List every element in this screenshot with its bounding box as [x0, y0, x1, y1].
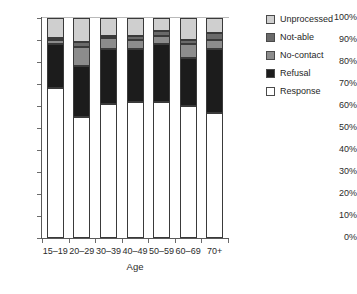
legend-swatch-not-able-icon	[266, 33, 275, 42]
legend-item-not-able[interactable]: Not-able	[266, 28, 356, 46]
x-axis-tick-label: 60–69	[175, 246, 202, 256]
legend-item-label: Unprocessed	[280, 14, 333, 24]
stacked-bar[interactable]	[153, 18, 170, 238]
bar-segment-unprocessed[interactable]	[73, 18, 90, 42]
stacked-bar[interactable]	[127, 18, 144, 238]
bar-segment-no-contact[interactable]	[206, 40, 223, 49]
legend-swatch-unprocessed-icon	[266, 15, 275, 24]
x-axis-tick-label: 20–29	[69, 246, 96, 256]
y-axis-tick-mark	[37, 194, 41, 195]
y-axis-tick-label: 10%	[319, 211, 357, 220]
legend-swatch-no-contact-icon	[266, 51, 275, 60]
bar-segment-refusal[interactable]	[100, 49, 117, 104]
x-axis-tick-mark	[122, 239, 123, 243]
bar-segment-no-contact[interactable]	[153, 36, 170, 45]
x-axis-tick-label: 50–59	[148, 246, 175, 256]
bar-segment-unprocessed[interactable]	[127, 18, 144, 36]
bar-segment-response[interactable]	[47, 88, 64, 238]
legend-item-label: Not-able	[280, 32, 314, 42]
y-axis-tick-mark	[37, 216, 41, 217]
bar-segment-no-contact[interactable]	[180, 44, 197, 57]
stacked-bar[interactable]	[180, 18, 197, 238]
bar-segment-no-contact[interactable]	[47, 40, 64, 44]
bar-segment-response[interactable]	[153, 102, 170, 238]
legend-item-response[interactable]: Response	[266, 82, 356, 100]
bar-segment-refusal[interactable]	[47, 44, 64, 88]
legend-item-label: No-contact	[280, 50, 324, 60]
legend-item-unprocessed[interactable]: Unprocessed	[266, 10, 356, 28]
x-axis-tick-mark	[95, 239, 96, 243]
bar-segment-not-able[interactable]	[206, 33, 223, 40]
legend-swatch-response-icon	[266, 87, 275, 96]
y-axis-tick-mark	[37, 172, 41, 173]
bar-segment-refusal[interactable]	[127, 49, 144, 102]
x-axis-tick-label: 30–39	[95, 246, 122, 256]
bar-segment-unprocessed[interactable]	[47, 18, 64, 38]
bar-segment-no-contact[interactable]	[73, 47, 90, 67]
y-axis-tick-mark	[37, 128, 41, 129]
bar-segment-not-able[interactable]	[180, 40, 197, 44]
bar-segment-response[interactable]	[73, 117, 90, 238]
y-axis-tick-mark	[37, 106, 41, 107]
stacked-bar[interactable]	[73, 18, 90, 238]
y-axis-tick-mark	[37, 238, 41, 239]
bar-segment-not-able[interactable]	[127, 36, 144, 40]
legend-item-no-contact[interactable]: No-contact	[266, 46, 356, 64]
bar-segment-refusal[interactable]	[180, 58, 197, 106]
y-axis-tick-mark	[37, 18, 41, 19]
x-axis-tick-mark	[148, 239, 149, 243]
x-axis-tick-label: 40–49	[122, 246, 149, 256]
plot-area	[42, 18, 228, 238]
figure-container: 100%90%80%70%60%50%40%30%20%10%0% 15–192…	[0, 0, 357, 294]
legend-item-refusal[interactable]: Refusal	[266, 64, 356, 82]
bar-segment-response[interactable]	[206, 113, 223, 238]
x-axis-title: Age	[42, 261, 228, 272]
y-axis-tick-label: 40%	[319, 145, 357, 154]
y-axis-tick-label: 50%	[319, 123, 357, 132]
bar-segment-not-able[interactable]	[100, 36, 117, 38]
bar-segment-no-contact[interactable]	[100, 38, 117, 49]
x-axis-tick-label: 15–19	[42, 246, 69, 256]
stacked-bar[interactable]	[47, 18, 64, 238]
legend-item-label: Response	[280, 86, 321, 96]
y-axis-tick-label: 0%	[319, 233, 357, 242]
y-axis-tick-mark	[37, 40, 41, 41]
bar-segment-unprocessed[interactable]	[100, 18, 117, 36]
bar-segment-refusal[interactable]	[73, 66, 90, 117]
y-axis-tick-mark	[37, 62, 41, 63]
stacked-bar[interactable]	[206, 18, 223, 238]
bar-segment-no-contact[interactable]	[127, 40, 144, 49]
bar-segment-unprocessed[interactable]	[180, 18, 197, 40]
bar-segment-unprocessed[interactable]	[153, 18, 170, 31]
bar-segment-response[interactable]	[127, 102, 144, 238]
figure-caption	[28, 284, 328, 292]
x-axis-tick-mark	[42, 239, 43, 243]
chart-legend: UnprocessedNot-ableNo-contactRefusalResp…	[266, 10, 356, 100]
legend-item-label: Refusal	[280, 68, 311, 78]
bar-segment-unprocessed[interactable]	[206, 18, 223, 33]
x-axis-tick-label: 70+	[201, 246, 228, 256]
y-axis-tick-label: 20%	[319, 189, 357, 198]
bar-segment-response[interactable]	[100, 104, 117, 238]
x-axis-tick-mark	[69, 239, 70, 243]
y-axis-tick-mark	[37, 150, 41, 151]
x-axis-tick-mark	[228, 239, 229, 243]
x-axis-tick-mark	[201, 239, 202, 243]
bar-segment-not-able[interactable]	[47, 38, 64, 40]
x-axis-tick-mark	[175, 239, 176, 243]
bar-segment-response[interactable]	[180, 106, 197, 238]
stacked-bar[interactable]	[100, 18, 117, 238]
bar-segment-not-able[interactable]	[153, 31, 170, 35]
y-axis-tick-mark	[37, 84, 41, 85]
y-axis-tick-label: 30%	[319, 167, 357, 176]
legend-swatch-refusal-icon	[266, 69, 275, 78]
bar-segment-refusal[interactable]	[153, 44, 170, 101]
bar-segment-refusal[interactable]	[206, 49, 223, 113]
y-axis-tick-label: 60%	[319, 101, 357, 110]
bar-segment-not-able[interactable]	[73, 42, 90, 46]
